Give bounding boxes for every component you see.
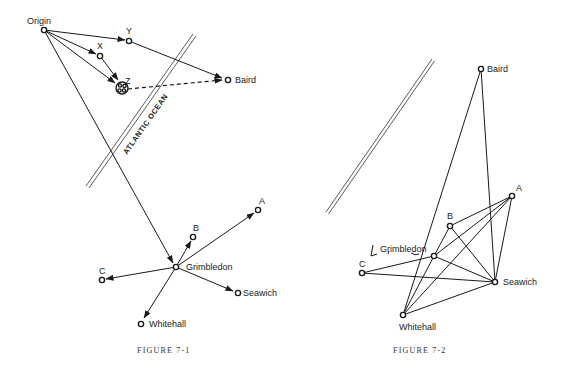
label-a-2: A	[516, 183, 522, 193]
edge-whitehall-seawich	[403, 282, 495, 315]
edge-baird-seawich	[481, 69, 495, 282]
figure2-edges	[362, 69, 512, 315]
node-origin	[41, 27, 46, 32]
node-grimbledon	[173, 264, 178, 269]
label-seawich-2: Seawich	[503, 277, 537, 287]
edge-b-grimbledon	[434, 226, 450, 256]
edge-a-grimbledon	[434, 196, 512, 256]
node-c-2	[359, 270, 364, 275]
label-whitehall-2: Whitehall	[399, 322, 436, 332]
label-a: A	[259, 196, 265, 206]
node-b	[190, 234, 195, 239]
label-baird: Baird	[235, 75, 256, 85]
edge-grimbledon-c	[106, 267, 176, 279]
edge-y-baird	[129, 41, 222, 78]
label-y: Y	[126, 26, 132, 36]
node-baird-2	[478, 66, 483, 71]
diagram-canvas: ATLANTIC OCEAN Origin Y X	[0, 0, 565, 376]
node-a-2	[509, 193, 514, 198]
label-b-2: B	[447, 211, 453, 221]
label-c: C	[99, 266, 106, 276]
figure-caption-7-2: FIGURE 7-2	[393, 346, 447, 355]
figure1-edges	[44, 30, 254, 318]
edge-z-baird-dashed	[128, 80, 222, 89]
label-b: B	[193, 223, 199, 233]
label-grimbledon: Grimbledon	[186, 262, 233, 272]
edge-origin-grimbledon	[44, 30, 173, 263]
label-baird-2: Baird	[487, 64, 508, 74]
label-x: X	[97, 41, 103, 51]
edge-a-seawich	[495, 196, 512, 282]
edge-grimbledon-c	[362, 256, 434, 273]
node-grimbledon-2	[431, 253, 436, 258]
node-x	[97, 53, 102, 58]
node-baird	[225, 77, 230, 82]
node-y	[126, 38, 131, 43]
node-b-2	[447, 223, 452, 228]
edge-a-whitehall	[403, 196, 512, 315]
edge-c-seawich	[362, 273, 495, 282]
label-z: Z	[125, 76, 131, 86]
edge-a-b	[450, 196, 512, 226]
node-c	[99, 277, 104, 282]
label-whitehall: Whitehall	[149, 319, 186, 329]
figure-7-1: ATLANTIC OCEAN Origin Y X	[27, 16, 277, 355]
node-seawich	[235, 290, 240, 295]
edge-grimbledon-whitehall	[144, 267, 176, 318]
figure-7-2: Baird A B Grimbledon C Seawich Whitehall…	[326, 59, 537, 355]
edge-b-seawich	[450, 226, 495, 282]
node-a	[255, 207, 260, 212]
node-whitehall-2	[400, 312, 405, 317]
atlantic-ocean-boundary-2	[326, 59, 435, 214]
node-seawich-2	[492, 279, 497, 284]
label-seawich: Seawich	[243, 288, 277, 298]
label-origin: Origin	[27, 16, 51, 26]
label-c-2: C	[359, 259, 366, 269]
label-grimbledon-2: Grimbledon	[380, 244, 427, 254]
figure-caption-7-1: FIGURE 7-1	[137, 346, 191, 355]
node-whitehall	[138, 321, 143, 326]
edge-x-z	[100, 56, 118, 80]
edge-grimbledon-a	[176, 213, 254, 267]
